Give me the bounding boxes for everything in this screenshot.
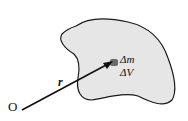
diagram-canvas xyxy=(0,0,188,121)
vector-r-label: r xyxy=(58,76,63,88)
mass-delta-label: Δm xyxy=(120,54,134,65)
origin-label: O xyxy=(8,100,17,113)
volume-delta-label: ΔV xyxy=(120,67,133,78)
